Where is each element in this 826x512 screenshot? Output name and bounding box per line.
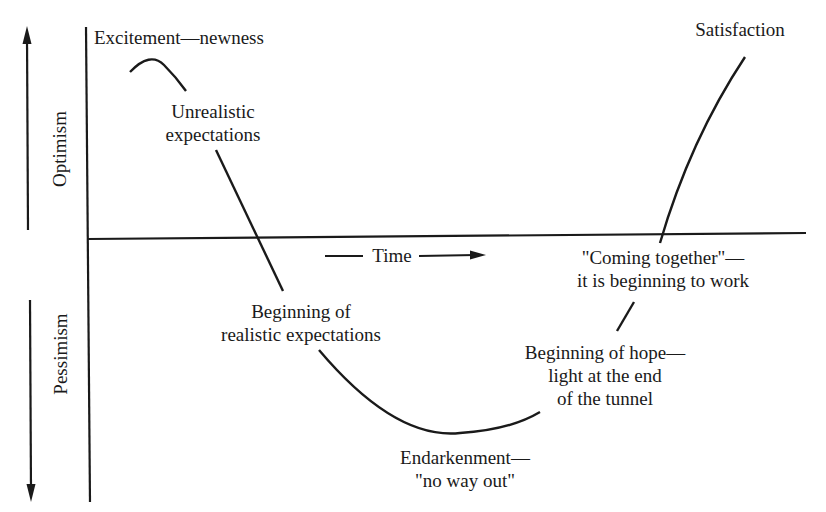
stage-label-realistic: Beginning of realistic expectations: [196, 300, 406, 346]
time-label: Time: [365, 244, 419, 267]
stage-text: Satisfaction: [680, 18, 800, 41]
stage-label-hope: Beginning of hope— light at the end of t…: [505, 341, 705, 410]
stage-text: "Coming together"—: [548, 246, 778, 269]
stage-label-satisfaction: Satisfaction: [680, 18, 800, 41]
stage-text: "no way out": [380, 469, 550, 492]
pessimism-label: Pessimism: [50, 306, 72, 402]
stage-label-endarkenment: Endarkenment— "no way out": [380, 446, 550, 492]
stage-text: Excitement—newness: [94, 26, 264, 49]
stage-label-coming-together: "Coming together"— it is beginning to wo…: [548, 246, 778, 292]
y-axis: [86, 27, 90, 502]
stage-text: expectations: [148, 123, 278, 146]
optimism-label: Optimism: [49, 109, 71, 189]
stage-label-excitement: Excitement—newness: [94, 26, 264, 49]
optimism-arrow-icon: [23, 26, 32, 230]
curve-hope-tick: [617, 302, 634, 331]
stage-text: it is beginning to work: [548, 269, 778, 292]
x-axis: [88, 233, 806, 239]
stage-text: Endarkenment—: [380, 446, 550, 469]
stage-text: Unrealistic: [148, 100, 278, 123]
stage-text: of the tunnel: [505, 387, 705, 410]
curve-decline-line: [216, 150, 283, 291]
pessimism-arrow-icon: [27, 300, 36, 502]
stage-text: Beginning of hope—: [505, 341, 705, 364]
stage-label-unrealistic: Unrealistic expectations: [148, 100, 278, 146]
stage-text: light at the end: [505, 364, 705, 387]
stage-text: Beginning of: [196, 300, 406, 323]
stage-text: realistic expectations: [196, 323, 406, 346]
curve-rise: [660, 57, 745, 243]
curve-excitement-hump: [130, 59, 186, 91]
